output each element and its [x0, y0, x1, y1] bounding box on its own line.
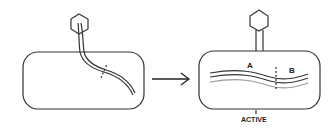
left-cell [23, 14, 144, 109]
right-cell [199, 10, 320, 114]
label-a: A [247, 61, 253, 70]
caption-active: ACTIVE [241, 116, 267, 123]
arrow-icon [152, 73, 189, 85]
label-b: B [289, 66, 295, 75]
diagram: A B ACTIVE [0, 0, 336, 133]
